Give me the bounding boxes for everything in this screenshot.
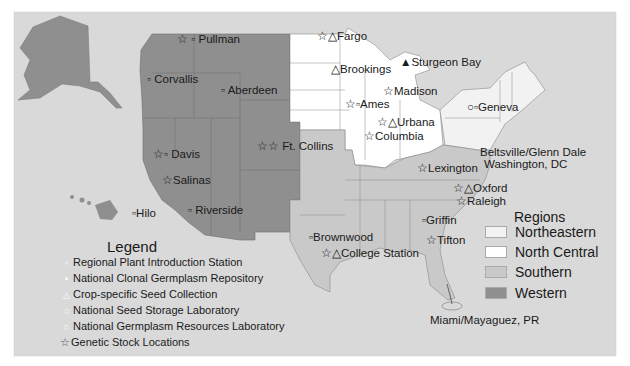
city-miami-mayaguez: Miami/Mayaguez, PR — [430, 314, 539, 326]
region-north-central: North Central — [485, 244, 598, 260]
city-riverside: ▫ Riverside — [188, 204, 243, 216]
region-southern: Southern — [485, 264, 572, 280]
city-urbana: ☆△Urbana — [377, 116, 435, 128]
legend-item-clonal: •National Clonal Germplasm Repository — [62, 272, 263, 284]
legend-item-plant-intro: ▫Regional Plant Introduction Station — [62, 256, 242, 268]
city-hilo: ▫Hilo — [132, 207, 156, 219]
city-davis: ☆▫ Davis — [153, 148, 200, 160]
legend-item-genetic-stock: ☆Genetic Stock Locations — [60, 336, 190, 349]
square-icon: ▫ — [62, 258, 71, 268]
city-salinas: ☆Salinas — [162, 174, 211, 186]
white-star-icon: ☆ — [62, 306, 71, 316]
legend-item-crop-specific: △Crop-specific Seed Collection — [62, 288, 217, 300]
legend-title: Legend — [107, 238, 157, 255]
city-washington: Washington, DC — [484, 158, 567, 170]
circle-icon: ○ — [62, 322, 71, 332]
city-brookings: △Brookings — [331, 63, 391, 75]
city-corvallis: ▫ Corvallis — [147, 73, 198, 85]
northeastern-swatch — [485, 226, 507, 238]
southern-swatch — [485, 266, 507, 278]
western-swatch — [485, 287, 507, 299]
city-beltsville: Beltsville/Glenn Dale — [480, 146, 586, 158]
hawaii-shape — [95, 200, 118, 220]
city-oxford: ☆△Oxford — [453, 182, 508, 194]
legend-item-germplasm-resources: ○National Germplasm Resources Laboratory — [62, 320, 285, 332]
region-northeastern: Northeastern — [485, 224, 596, 240]
city-geneva: ○▫Geneva — [467, 101, 518, 113]
regions-title: Regions — [514, 209, 565, 225]
region-western: Western — [485, 285, 567, 301]
city-ames: ☆▫Ames — [345, 98, 389, 110]
city-lexington: ☆Lexington — [417, 162, 478, 174]
city-aberdeen: ▫ Aberdeen — [221, 84, 278, 96]
city-fargo: ☆△Fargo — [317, 30, 367, 42]
city-raleigh: ☆Raleigh — [456, 195, 506, 207]
city-sturgeon-bay: ▲Sturgeon Bay — [400, 56, 481, 68]
city-madison: ☆Madison — [383, 85, 437, 97]
legend-item-seed-storage: ☆National Seed Storage Laboratory — [62, 304, 239, 316]
alaska-shape — [18, 16, 122, 108]
city-college-station: ☆△College Station — [321, 247, 419, 259]
star-icon: ☆ — [60, 336, 69, 349]
north-central-swatch — [485, 246, 507, 258]
city-tifton: ☆Tifton — [426, 234, 465, 246]
city-pullman: ☆ ▫ Pullman — [177, 33, 240, 45]
city-columbia: ☆Columbia — [364, 130, 424, 142]
dot-icon: • — [62, 274, 71, 284]
city-ft-collins: ☆☆ Ft. Collins — [257, 140, 333, 152]
city-griffin: ▫Griffin — [422, 214, 457, 226]
city-brownwood: ▫Brownwood — [309, 231, 373, 243]
triangle-icon: △ — [62, 290, 71, 300]
